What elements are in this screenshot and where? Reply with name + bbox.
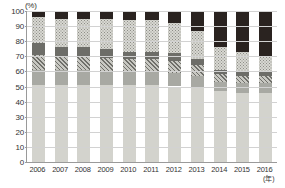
x-tick-label: 2010: [120, 165, 136, 174]
x-tick-label: 2011: [143, 165, 158, 174]
y-tick-label: 0: [20, 158, 24, 167]
bar-segment: [100, 19, 113, 49]
x-tick-label: 2008: [75, 165, 91, 174]
y-tick-label: 60: [16, 67, 25, 76]
bar-segment: [100, 58, 113, 72]
bar-segment: [100, 11, 113, 19]
bar-segment: [32, 43, 45, 55]
x-tick-label: 2006: [29, 165, 45, 174]
bar-segment: [191, 11, 204, 31]
x-axis-labels: 2006200720082009201020112012201320142015…: [26, 165, 276, 183]
bar-segment: [236, 93, 249, 162]
bar-segment: [100, 71, 113, 85]
bar-segment: [32, 85, 45, 162]
bar-segment: [168, 11, 181, 23]
gridline: [27, 11, 277, 12]
x-tick-label: 2009: [98, 165, 114, 174]
y-tick-mark: [25, 41, 27, 42]
bar-segment: [123, 20, 136, 52]
x-axis-unit-label: (年): [263, 173, 275, 183]
y-tick-label: 10: [16, 142, 25, 151]
bar-segment: [55, 19, 68, 48]
bar-segment: [236, 11, 249, 52]
bar-segment: [145, 20, 158, 52]
gridline: [27, 41, 277, 42]
gridline: [27, 87, 277, 88]
y-tick-label: 30: [16, 112, 25, 121]
bar-segment: [123, 85, 136, 162]
y-tick-mark: [25, 117, 27, 118]
gridline: [27, 26, 277, 27]
bar-segment: [77, 19, 90, 48]
bar-segment: [123, 71, 136, 85]
plot-area: 0102030405060708090100: [26, 11, 277, 163]
bar-segment: [123, 11, 136, 20]
bar-segment: [55, 47, 68, 56]
bar-segment: [259, 83, 272, 92]
bar-segment: [259, 56, 272, 71]
bar-segment: [191, 31, 204, 60]
bar-segment: [259, 76, 272, 84]
y-tick-mark: [25, 56, 27, 57]
gridline: [27, 147, 277, 148]
bar-segment: [77, 85, 90, 162]
y-tick-label: 70: [16, 52, 25, 61]
bar-segment: [191, 88, 204, 162]
bar-segment: [145, 11, 158, 20]
y-tick-mark: [25, 71, 27, 72]
bar-segment: [236, 52, 249, 72]
bar-segment: [145, 71, 158, 85]
bar-segment: [145, 59, 158, 71]
gridline: [27, 71, 277, 72]
bar-segment: [55, 85, 68, 162]
bar-segment: [145, 85, 158, 162]
y-tick-mark: [25, 87, 27, 88]
bar-segment: [55, 11, 68, 19]
stacked-bar-chart: (%) 0102030405060708090100 2006200720082…: [0, 0, 285, 188]
y-tick-label: 50: [16, 82, 25, 91]
gridline: [27, 56, 277, 57]
bar-segment: [236, 76, 249, 84]
x-tick-label: 2007: [52, 165, 68, 174]
y-tick-mark: [25, 26, 27, 27]
bar-segment: [100, 85, 113, 162]
bar-segment: [77, 47, 90, 56]
y-tick-mark: [25, 147, 27, 148]
y-tick-label: 100: [11, 7, 24, 16]
bar-segment: [236, 83, 249, 92]
bar-segment: [32, 17, 45, 43]
bar-segment: [168, 73, 181, 87]
bar-segment: [123, 59, 136, 71]
gridline: [27, 117, 277, 118]
bar-segment: [214, 47, 227, 70]
x-tick-label: 2015: [234, 165, 250, 174]
bar-segment: [259, 93, 272, 162]
bar-segment: [168, 87, 181, 163]
x-tick-label: 2014: [211, 165, 227, 174]
gridline: [27, 102, 277, 103]
x-tick-label: 2013: [189, 165, 205, 174]
gridline: [27, 132, 277, 133]
y-tick-mark: [25, 102, 27, 103]
x-tick-label: 2012: [166, 165, 182, 174]
y-tick-label: 80: [16, 37, 25, 46]
y-tick-label: 90: [16, 22, 25, 31]
bar-segment: [77, 11, 90, 19]
bar-segment: [259, 11, 272, 56]
y-tick-label: 20: [16, 127, 25, 136]
y-tick-mark: [25, 132, 27, 133]
y-tick-mark: [25, 162, 27, 163]
y-tick-mark: [25, 11, 27, 12]
bar-segment: [168, 23, 181, 53]
bar-segment: [77, 56, 90, 70]
bar-segment: [55, 56, 68, 70]
bar-segment: [191, 59, 204, 65]
y-axis-unit-label: (%): [25, 1, 37, 10]
bar-segment: [214, 74, 227, 82]
y-tick-label: 40: [16, 97, 25, 106]
